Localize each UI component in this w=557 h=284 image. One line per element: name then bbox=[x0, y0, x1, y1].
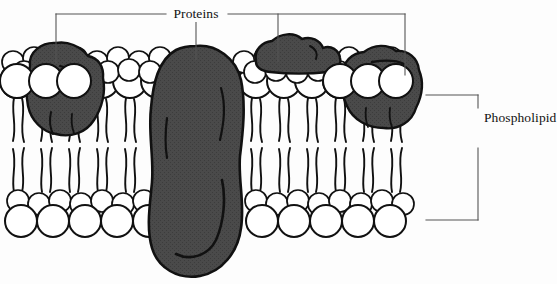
right-protein-overlapping-heads bbox=[323, 64, 413, 98]
proteins-label: Proteins bbox=[169, 6, 222, 22]
membrane-illustration bbox=[0, 0, 557, 284]
bilayer-bracket bbox=[426, 95, 478, 220]
central-transmembrane-protein bbox=[149, 46, 244, 277]
top-peripheral-protein bbox=[256, 34, 341, 73]
phospholipid-bilayer-label: Phospholipid bilayer bbox=[484, 110, 557, 126]
cell-membrane-diagram: Proteins Phospholipid bilayer bbox=[0, 0, 557, 284]
left-protein-overlapping-heads bbox=[0, 64, 91, 98]
